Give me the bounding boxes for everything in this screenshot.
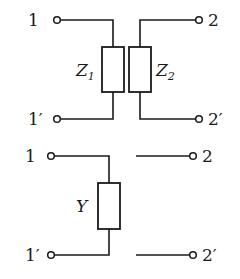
label-1-prime: 1′ (28, 109, 43, 129)
circuit-z1-z2: 1 1′ 2 2′ Z1 Z2 (28, 10, 223, 129)
label-2-prime: 2′ (202, 245, 217, 265)
terminal-1 (48, 153, 55, 160)
circuit-diagram: 1 1′ 2 2′ Z1 Z2 1 1′ 2 2′ Y (0, 0, 240, 279)
label-y: Y (76, 196, 89, 216)
wire-2-to-z2 (140, 20, 196, 47)
impedance-z1 (102, 47, 124, 92)
label-2: 2 (202, 146, 213, 166)
terminal-1-prime (54, 116, 61, 123)
terminal-2 (196, 17, 203, 24)
label-1: 1 (25, 146, 36, 166)
terminal-2 (190, 153, 197, 160)
wire-1-to-z1 (60, 20, 113, 47)
terminal-1-prime (48, 252, 55, 259)
label-1-prime: 1′ (25, 245, 40, 265)
terminal-2-prime (196, 116, 203, 123)
terminal-2-prime (190, 252, 197, 259)
circuit-y: 1 1′ 2 2′ Y (25, 146, 217, 265)
wire-y-to-1prime (54, 229, 109, 255)
admittance-y (98, 183, 120, 229)
label-1: 1 (28, 10, 39, 30)
wire-z2-to-2prime (140, 92, 196, 119)
terminal-1 (54, 17, 61, 24)
wire-1-to-y (54, 156, 109, 183)
label-z1: Z1 (75, 60, 95, 83)
label-2: 2 (208, 10, 219, 30)
label-2-prime: 2′ (208, 109, 223, 129)
label-z2: Z2 (155, 60, 175, 83)
wire-z1-to-1prime (60, 92, 113, 119)
impedance-z2 (129, 47, 151, 92)
